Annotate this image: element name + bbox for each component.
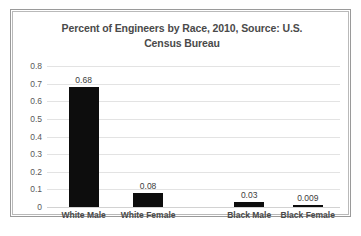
bar [234, 202, 264, 207]
chart-title-line-1: Percent of Engineers by Race, 2010, Sour… [37, 21, 327, 36]
chart-title: Percent of Engineers by Race, 2010, Sour… [37, 21, 327, 51]
x-axis-category-label: Black Female [281, 210, 335, 220]
bar-value-label: 0.08 [140, 181, 157, 191]
bar-value-label: 0.03 [241, 190, 258, 200]
gridline [47, 207, 340, 208]
y-axis-tick-label: 0 [37, 202, 42, 212]
y-axis-tick-label: 0.7 [30, 79, 42, 89]
y-axis-tick-label: 0.8 [30, 61, 42, 71]
bar-value-label: 0.68 [75, 75, 92, 85]
bar-value-label: 0.009 [297, 193, 318, 203]
chart-title-line-2: Census Bureau [37, 36, 327, 51]
x-axis-category-label: White Male [61, 210, 105, 220]
y-axis-tick-label: 0.2 [30, 167, 42, 177]
bar [69, 87, 99, 207]
y-axis-tick-label: 0.1 [30, 184, 42, 194]
bar [133, 193, 163, 207]
y-axis-tick-label: 0.3 [30, 149, 42, 159]
y-axis-tick-label: 0.5 [30, 114, 42, 124]
y-axis-tick-label: 0.6 [30, 96, 42, 106]
chart-frame: Percent of Engineers by Race, 2010, Sour… [10, 9, 351, 217]
x-axis-category-label: White Female [121, 210, 176, 220]
plot-area: 0.80.70.60.50.40.30.20.10 0.680.080.030.… [47, 66, 340, 207]
gridline [47, 66, 340, 67]
y-axis-tick-label: 0.4 [30, 132, 42, 142]
x-axis-category-label: Black Male [227, 210, 271, 220]
bar [293, 205, 323, 207]
